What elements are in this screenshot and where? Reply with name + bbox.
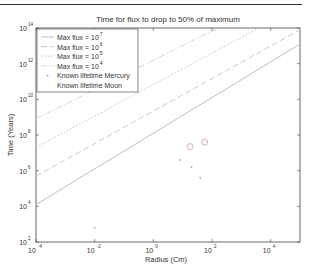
legend-item-label: Max flux = 10 [57,63,99,70]
y-tick-exponent: 2 [28,236,31,241]
y-tick-exponent: 10 [28,93,34,98]
y-tick-exponent: 8 [28,129,31,134]
x-tick-exponent: -2 [97,244,101,249]
y-tick-label: 10 [19,25,27,32]
chart: Time for flux to drop to 50% of maximum … [0,0,310,274]
x-axis-label: Radius (Cm) [145,255,188,264]
legend-item-label: Max flux = 10 [57,53,99,60]
y-tick-label: 10 [19,61,27,68]
x-tick-label: 10 [204,247,212,254]
x-tick-label: 10 [28,247,36,254]
marker-mercury [94,227,96,229]
legend-item-exponent: 7 [100,31,103,37]
marker-mercury [199,177,201,179]
marker-mercury [179,159,181,161]
x-tick-exponent: 4 [273,244,276,249]
y-tick-label: 10 [19,96,27,103]
legend: Max flux = 107Max flux = 106Max flux = 1… [37,29,138,92]
legend-item-exponent: 6 [100,41,103,47]
x-tick-exponent: 2 [214,244,217,249]
legend-item-exponent: 5 [100,50,103,56]
y-tick-exponent: 6 [28,165,31,170]
y-tick-label: 10 [19,203,27,210]
x-tick-label: 10 [263,247,271,254]
x-tick-label: 10 [145,247,153,254]
legend-item-label: Known lifetime Mercury [57,72,130,80]
y-axis-label: Time (Years) [6,113,15,156]
y-tick-label: 10 [19,168,27,175]
x-tick-exponent: 0 [155,244,158,249]
legend-item-label: Max flux = 10 [57,44,99,51]
y-tick-label: 10 [19,239,27,246]
marker-mercury [190,166,192,168]
legend-item-exponent: 4 [100,60,103,66]
y-tick-exponent: 12 [28,58,34,63]
chart-title: Time for flux to drop to 50% of maximum [96,15,240,24]
legend-item-label: Known lifetime Moon [57,82,122,89]
legend-swatch [47,74,49,76]
y-tick-exponent: 14 [28,22,34,27]
legend-item-label: Max flux = 10 [57,34,99,41]
x-tick-exponent: -4 [38,244,42,249]
y-tick-label: 10 [19,132,27,139]
y-tick-exponent: 4 [28,200,31,205]
x-tick-label: 10 [87,247,95,254]
